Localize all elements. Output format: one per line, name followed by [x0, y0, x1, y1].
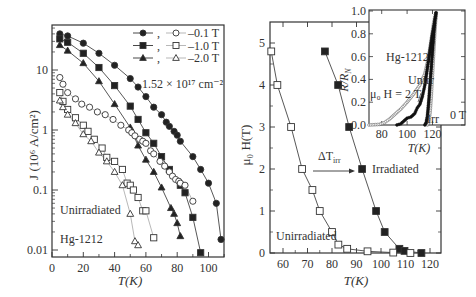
data-point — [56, 42, 63, 48]
left-y-axis-label: J (10⁶ A/cm²) — [26, 110, 41, 180]
data-point — [299, 166, 306, 173]
data-point — [112, 158, 118, 164]
data-point — [316, 208, 323, 215]
data-point — [174, 132, 180, 138]
left-panel: 0204060801000.010.1110 J (10⁶ A/cm²) T(K… — [26, 25, 224, 288]
data-point — [96, 64, 102, 70]
data-point — [135, 116, 141, 122]
inset-y-tick-label: 0.4 — [351, 72, 366, 86]
inset-x-axis-label: T(K) — [408, 141, 431, 155]
data-point — [57, 74, 63, 80]
data-point — [190, 198, 196, 204]
data-point — [130, 187, 136, 193]
x-tick-label: 80 — [171, 261, 183, 275]
inset-zero-field-label: 0 T — [450, 108, 467, 122]
data-point — [407, 250, 414, 257]
fluence-annotation: 1.52 × 10¹⁷ cm⁻² — [142, 77, 224, 91]
y-tick-label: 1 — [42, 123, 48, 137]
right-x-axis-label: T(K) — [344, 273, 369, 288]
data-point — [190, 154, 196, 160]
data-point — [174, 220, 181, 226]
data-point — [102, 112, 108, 118]
inset-y-tick-label: 0.2 — [351, 95, 366, 109]
x-tick-label: 80 — [326, 257, 338, 271]
inset-y-label-sub: N — [344, 68, 353, 75]
inset-y-axis-label: R/RN — [337, 68, 353, 93]
delta-t-subscript: irr — [333, 156, 341, 165]
data-point — [157, 158, 163, 164]
data-point — [344, 245, 351, 252]
inset-y-label-main: R/R — [337, 73, 351, 93]
y-tick-label: 4 — [259, 78, 265, 92]
data-point — [418, 250, 425, 257]
data-point — [166, 123, 172, 129]
right-irradiated-label: Irradiated — [372, 162, 419, 176]
data-point — [96, 50, 102, 56]
inset-irr-label: Irr — [427, 112, 439, 126]
data-point — [158, 112, 164, 118]
data-point — [151, 104, 157, 110]
inset-x-tick-label: 120 — [424, 127, 442, 141]
data-point — [80, 122, 86, 128]
data-point — [127, 210, 134, 216]
data-point — [57, 90, 63, 96]
delta-t-label: ΔT — [318, 149, 334, 163]
y-tick-label: 0.01 — [27, 243, 48, 257]
inset-x-tick-label: 100 — [398, 127, 416, 141]
legend-filled-marker — [140, 30, 146, 36]
data-point — [112, 62, 118, 68]
inset-field-label: μ₀ H = 2 T — [370, 87, 422, 101]
x-tick-label: 110 — [397, 257, 415, 271]
y-tick-label: 2 — [259, 162, 265, 176]
legend-open-marker — [173, 30, 179, 36]
data-point — [65, 33, 71, 39]
data-point — [79, 101, 85, 107]
inset-panel: 801001200.00.20.40.60.81.0 R/RN T(K) Hg-… — [337, 4, 467, 155]
x-tick-label: 20 — [77, 261, 89, 275]
data-point — [65, 39, 71, 45]
data-point — [162, 163, 168, 169]
data-point — [364, 248, 371, 255]
data-point — [390, 249, 397, 256]
data-point — [86, 104, 92, 110]
data-point — [359, 166, 366, 173]
left-material-label: Hg-1212 — [60, 232, 103, 246]
legend: ,–0.1 T,–1.0 T,–2.0 T — [133, 26, 220, 65]
x-tick-label: 60 — [277, 257, 289, 271]
legend-comma: , — [157, 51, 160, 65]
inset-y-tick-label: 1.0 — [351, 4, 366, 18]
data-point — [143, 130, 149, 136]
data-point — [65, 90, 71, 96]
x-tick-label: 70 — [302, 257, 314, 271]
arrow-head-icon — [349, 169, 355, 174]
data-point — [218, 236, 224, 242]
y-tick-label: 1 — [259, 204, 265, 218]
data-point — [127, 75, 133, 81]
data-point — [182, 182, 188, 188]
inset-y-tick-label: 0.6 — [351, 50, 366, 64]
data-point — [158, 184, 165, 190]
x-tick-label: 100 — [372, 257, 390, 271]
data-point — [111, 101, 118, 107]
data-point — [177, 233, 184, 239]
left-unirradiated-label: Unirradiated — [60, 203, 121, 217]
inset-material-label: Hg-1212 — [386, 50, 429, 64]
data-point — [110, 116, 116, 122]
data-point — [135, 84, 141, 90]
data-point — [171, 210, 178, 216]
data-point — [118, 122, 124, 128]
data-point — [151, 235, 157, 241]
svg-text:ΔTirr: ΔTirr — [318, 149, 341, 165]
data-point — [64, 47, 71, 53]
data-point — [80, 60, 87, 66]
left-axis-ticks: 0204060801000.010.1110 — [27, 28, 224, 275]
x-tick-label: 100 — [200, 261, 218, 275]
inset-y-tick-label: 0.0 — [351, 118, 366, 132]
legend-filled-marker — [140, 55, 147, 61]
inset-x-tick-label: 80 — [376, 127, 388, 141]
data-point — [168, 204, 175, 210]
legend-label: –2.0 T — [187, 51, 220, 65]
data-point — [85, 128, 91, 134]
data-point — [381, 229, 388, 236]
figure: 0204060801000.010.1110 J (10⁶ A/cm²) T(K… — [0, 0, 476, 297]
